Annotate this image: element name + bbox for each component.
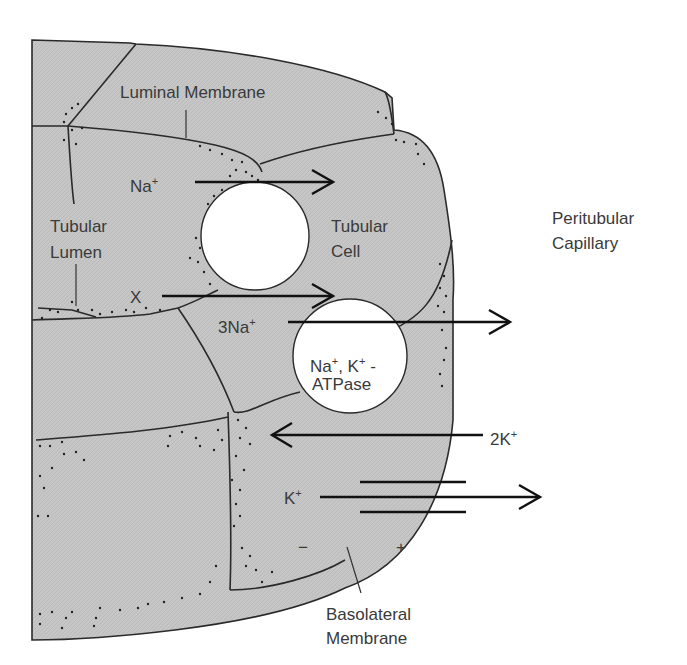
- potential-inside-sign: −: [298, 538, 308, 557]
- peritubular-capillary-label-2: Capillary: [552, 234, 619, 253]
- tubular-lumen-label-2: Lumen: [50, 243, 102, 262]
- luminal-membrane-label: Luminal Membrane: [120, 83, 266, 102]
- tubular-transport-diagram: Luminal Membrane Tubular Lumen Tubular C…: [0, 0, 687, 665]
- potential-outside-sign: +: [396, 538, 406, 557]
- pump-label-line2: ATPase: [312, 375, 371, 394]
- tubular-lumen-label-1: Tubular: [50, 217, 107, 236]
- peritubular-capillary-label-1: Peritubular: [552, 209, 635, 228]
- tubular-cell-label-2: Cell: [331, 242, 360, 261]
- na-k-atpase-pump: [293, 299, 407, 413]
- tubular-cell-label-1: Tubular: [331, 217, 388, 236]
- basolateral-membrane-label-2: Membrane: [326, 629, 407, 648]
- ion-label-x-in: X: [130, 288, 141, 307]
- ion-label-2k-in: 2K+: [490, 428, 517, 449]
- basolateral-membrane-label-1: Basolateral: [326, 605, 411, 624]
- luminal-carrier-circle: [201, 182, 309, 290]
- pump-label-line1: Na+, K+ -: [310, 355, 376, 376]
